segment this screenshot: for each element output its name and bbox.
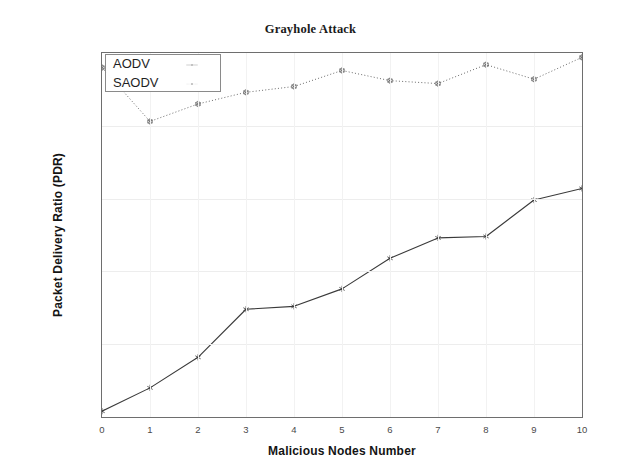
gridline-vertical	[390, 53, 391, 417]
gridline-vertical	[150, 53, 151, 417]
gridline-vertical	[246, 53, 247, 417]
x-axis-label: Malicious Nodes Number	[101, 444, 583, 458]
legend: AODVSAODV	[105, 54, 221, 92]
legend-line-sample	[168, 64, 216, 66]
x-tick-label: 4	[279, 424, 309, 435]
x-tick-label: 8	[471, 424, 501, 435]
x-tick-label: 0	[87, 424, 117, 435]
x-tick-label: 7	[423, 424, 453, 435]
x-tick-label: 3	[231, 424, 261, 435]
x-tick-label: 1	[135, 424, 165, 435]
x-tick-label: 6	[375, 424, 405, 435]
data-point-marker	[102, 408, 105, 414]
chart-figure: Grayhole Attack Packet Delivery Ratio (P…	[0, 0, 621, 476]
gridline-vertical	[294, 53, 295, 417]
legend-label: AODV	[113, 56, 150, 71]
legend-item-aodv[interactable]: AODV	[106, 55, 222, 74]
x-tick-label: 9	[519, 424, 549, 435]
y-axis-label: Packet Delivery Ratio (PDR)	[51, 85, 65, 385]
gridline-vertical	[438, 53, 439, 417]
legend-line-sample	[168, 83, 216, 85]
gridline-vertical	[342, 53, 343, 417]
gridline-vertical	[534, 53, 535, 417]
legend-item-saodv[interactable]: SAODV	[106, 74, 222, 93]
x-tick-label: 2	[183, 424, 213, 435]
legend-label: SAODV	[113, 75, 159, 90]
data-point-marker	[191, 83, 192, 85]
gridline-vertical	[486, 53, 487, 417]
x-tick-label: 10	[567, 424, 597, 435]
plot-area	[101, 52, 583, 418]
gridline-vertical	[198, 53, 199, 417]
x-tick-label: 5	[327, 424, 357, 435]
chart-title: Grayhole Attack	[0, 22, 621, 37]
data-point-marker	[579, 54, 582, 60]
